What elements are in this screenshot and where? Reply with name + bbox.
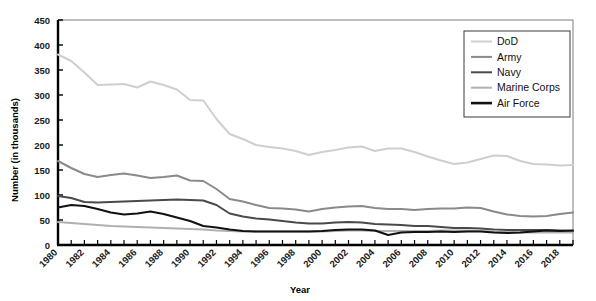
legend-label-army: Army xyxy=(497,51,522,63)
legend-label-navy: Navy xyxy=(497,66,522,78)
x-tick-label: 1996 xyxy=(248,247,271,270)
legend-label-dod: DoD xyxy=(497,35,518,47)
x-tick-label: 1990 xyxy=(169,247,192,270)
x-tick-label: 2002 xyxy=(327,247,350,270)
y-tick-label: 450 xyxy=(34,15,50,26)
x-tick-label: 1984 xyxy=(90,246,113,269)
line-chart: 050100150200250300350400450 198019821984… xyxy=(0,0,596,301)
y-axis-title: Number (in thousands) xyxy=(9,98,20,202)
series-line-army xyxy=(58,161,573,217)
chart-legend: DoDArmyNavyMarine CorpsAir Force xyxy=(464,31,570,117)
x-tick-label: 2014 xyxy=(486,246,509,269)
legend-label-air-force: Air Force xyxy=(497,97,540,109)
x-tick-label: 2000 xyxy=(301,247,324,270)
x-tick-label: 1986 xyxy=(116,247,139,270)
y-tick-label: 300 xyxy=(34,90,50,101)
x-tick-label: 2004 xyxy=(354,246,377,269)
legend-label-marine-corps: Marine Corps xyxy=(497,81,560,93)
y-tick-label: 200 xyxy=(34,140,50,151)
x-tick-label: 2010 xyxy=(433,247,456,270)
x-tick-label: 2006 xyxy=(380,247,403,270)
x-tick-label: 1998 xyxy=(274,247,297,270)
x-tick-label: 1980 xyxy=(37,247,60,270)
x-tick-label: 1994 xyxy=(222,246,245,269)
x-tick-label: 2012 xyxy=(459,247,482,270)
y-tick-label: 150 xyxy=(34,165,50,176)
y-tick-label: 50 xyxy=(39,215,50,226)
x-tick-label: 1992 xyxy=(195,247,218,270)
chart-container: 050100150200250300350400450 198019821984… xyxy=(0,0,596,301)
x-tick-label: 1982 xyxy=(63,247,86,270)
x-axis-title: Year xyxy=(290,284,310,295)
y-tick-label: 100 xyxy=(34,190,50,201)
y-tick-label: 250 xyxy=(34,115,50,126)
x-tick-label: 1988 xyxy=(142,247,165,270)
y-tick-label: 350 xyxy=(34,65,50,76)
y-tick-label: 400 xyxy=(34,40,50,51)
x-tick-label: 2018 xyxy=(538,247,561,270)
x-tick-label: 2008 xyxy=(406,247,429,270)
x-tick-label: 2016 xyxy=(512,247,535,270)
